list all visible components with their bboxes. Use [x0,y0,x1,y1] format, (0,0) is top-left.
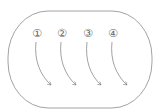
arrow-2 [61,42,76,85]
diagram-canvas [0,0,160,110]
step-1-label: ① [32,28,42,39]
step-3-label: ③ [83,28,93,39]
arrow-3 [87,42,101,85]
arrow-1 [36,42,51,85]
step-2-label: ② [57,28,67,39]
stadium-container [8,11,152,108]
arrow-4 [112,42,127,85]
step-4-label: ④ [108,28,118,39]
